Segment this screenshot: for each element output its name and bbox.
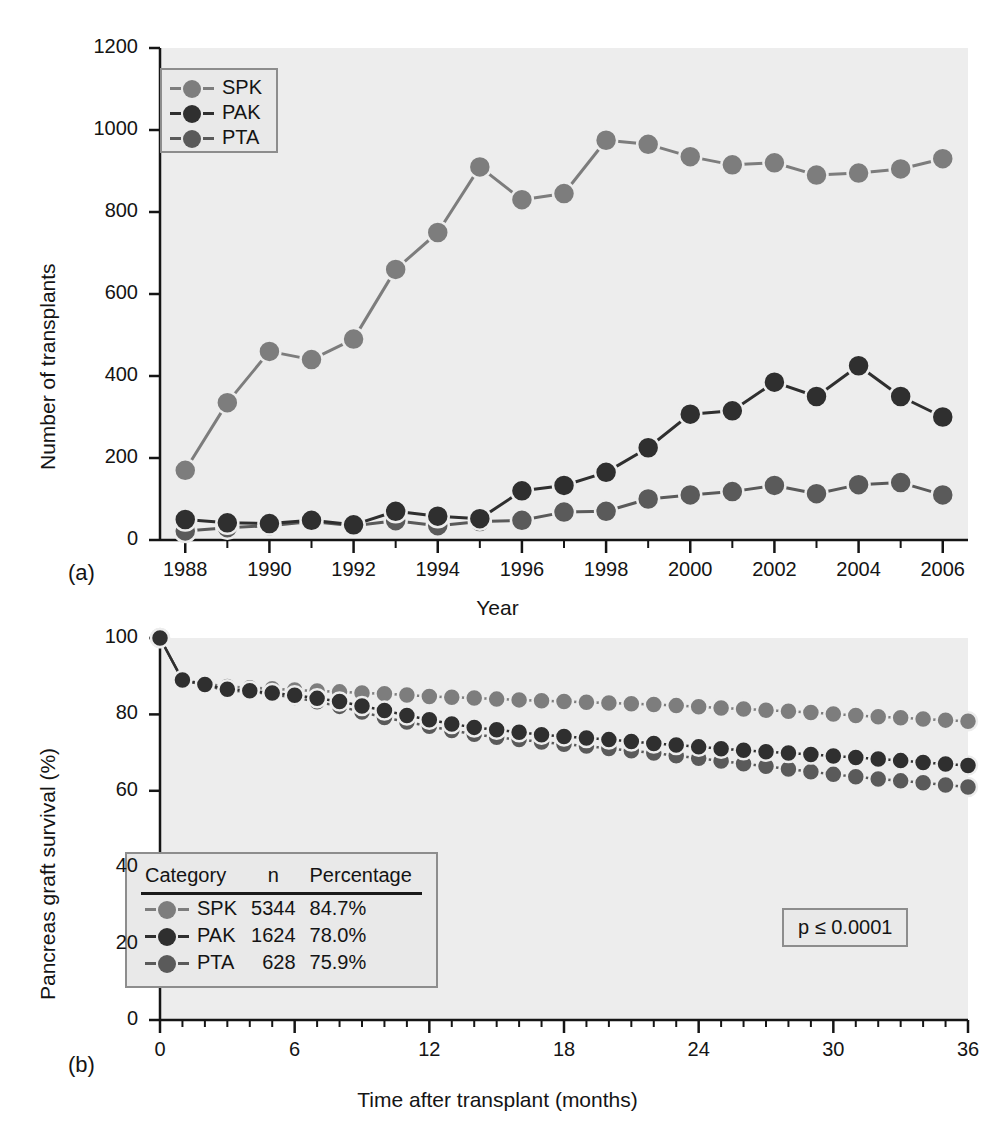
- plot-background: [160, 48, 968, 540]
- data-point: [848, 162, 870, 184]
- x-tick-label: 24: [639, 1038, 759, 1061]
- legend-table-category-cell: SPK: [141, 894, 247, 923]
- data-point: [577, 693, 595, 711]
- y-tick-label: 60: [30, 778, 138, 801]
- data-point: [216, 392, 238, 414]
- data-point: [301, 349, 323, 371]
- data-point: [286, 686, 304, 704]
- data-point: [258, 340, 280, 362]
- panel-b-label: (b): [68, 1052, 95, 1078]
- data-point: [959, 778, 977, 796]
- data-point: [375, 702, 393, 720]
- data-point: [510, 723, 528, 741]
- data-point: [721, 400, 743, 422]
- data-point: [577, 729, 595, 747]
- data-point: [757, 743, 775, 761]
- data-point: [892, 752, 910, 770]
- data-point: [779, 702, 797, 720]
- data-point: [721, 154, 743, 176]
- data-point: [533, 692, 551, 710]
- legend-table-category-label: PTA: [197, 951, 234, 974]
- data-point: [914, 754, 932, 772]
- legend-marker-icon: [145, 899, 189, 919]
- y-tick-label: 20: [30, 931, 138, 954]
- data-point: [869, 708, 887, 726]
- data-point: [533, 726, 551, 744]
- data-point: [645, 734, 663, 752]
- data-point: [241, 682, 259, 700]
- data-point: [890, 472, 912, 494]
- data-point: [824, 747, 842, 765]
- data-point: [637, 133, 659, 155]
- data-point: [914, 774, 932, 792]
- data-point: [555, 728, 573, 746]
- data-point: [343, 514, 365, 536]
- x-tick-label: 6: [235, 1038, 355, 1061]
- data-point: [510, 691, 528, 709]
- data-point: [637, 488, 659, 510]
- data-point: [465, 718, 483, 736]
- data-point: [469, 156, 491, 178]
- data-point: [802, 763, 820, 781]
- data-point: [645, 695, 663, 713]
- data-point: [637, 437, 659, 459]
- data-point: [890, 158, 912, 180]
- legend-table-header: Category: [141, 862, 247, 894]
- y-tick-label: 100: [30, 625, 138, 648]
- data-point: [757, 701, 775, 719]
- legend-item-label: PAK: [222, 101, 261, 124]
- data-point: [216, 512, 238, 534]
- data-point: [848, 355, 870, 377]
- data-point: [511, 189, 533, 211]
- y-tick-label: 80: [30, 701, 138, 724]
- data-point: [622, 695, 640, 713]
- figure-container: (a) Number of transplants Year SPKPAKPTA…: [0, 0, 995, 1121]
- data-point: [847, 707, 865, 725]
- data-point: [806, 164, 828, 186]
- data-point: [937, 755, 955, 773]
- x-tick-label: 2006: [883, 558, 995, 581]
- data-point: [511, 480, 533, 502]
- data-point: [735, 741, 753, 759]
- panel-a-plot: [0, 0, 995, 600]
- data-point: [173, 671, 191, 689]
- data-point: [427, 505, 449, 527]
- data-point: [779, 744, 797, 762]
- data-point: [932, 406, 954, 428]
- data-point: [667, 736, 685, 754]
- data-point: [331, 692, 349, 710]
- data-point: [488, 721, 506, 739]
- legend-table: CategorynPercentageSPK534484.7%PAK162478…: [141, 862, 422, 976]
- data-point: [806, 483, 828, 505]
- data-point: [553, 474, 575, 496]
- legend-table-row: PTA62875.9%: [141, 949, 422, 976]
- legend-item-spk: SPK: [170, 75, 268, 100]
- y-tick-label: 1000: [30, 117, 138, 140]
- legend-marker-icon: [145, 953, 189, 973]
- legend-table-row: PAK162478.0%: [141, 922, 422, 949]
- x-tick-label: 12: [369, 1038, 489, 1061]
- data-point: [802, 703, 820, 721]
- legend-marker-icon: [170, 128, 214, 148]
- x-tick-label: 30: [773, 1038, 893, 1061]
- y-tick-label: 0: [30, 1007, 138, 1030]
- data-point: [679, 403, 701, 425]
- y-tick-label: 0: [30, 527, 138, 550]
- data-point: [465, 689, 483, 707]
- data-point: [802, 746, 820, 764]
- data-point: [667, 697, 685, 715]
- legend-table-category-label: PAK: [197, 924, 236, 947]
- y-tick-label: 800: [30, 199, 138, 222]
- data-point: [869, 770, 887, 788]
- data-point: [301, 509, 323, 531]
- data-point: [469, 508, 491, 530]
- data-point: [595, 461, 617, 483]
- legend-item-label: SPK: [222, 76, 262, 99]
- y-tick-label: 600: [30, 281, 138, 304]
- data-point: [488, 690, 506, 708]
- panel-a-transplant-counts: (a) Number of transplants Year SPKPAKPTA…: [0, 0, 995, 600]
- data-point: [712, 699, 730, 717]
- data-point: [555, 692, 573, 710]
- y-tick-label: 40: [30, 854, 138, 877]
- data-point: [622, 733, 640, 751]
